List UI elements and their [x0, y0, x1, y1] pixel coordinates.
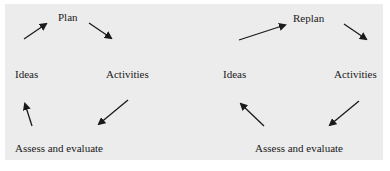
node-replan: Replan	[293, 13, 324, 24]
arrow-assess-to-ideas-right	[241, 104, 264, 126]
arrow-ideas-to-plan	[24, 24, 46, 39]
node-assess-and-evaluate: Assess and evaluate	[15, 143, 103, 154]
arrow-activities-to-assess	[99, 100, 128, 124]
arrow-plan-to-activities	[89, 23, 111, 38]
arrow-activities-to-assess-right	[330, 101, 359, 125]
node-activities: Activities	[106, 69, 149, 80]
node-activities-right: Activities	[334, 69, 377, 80]
node-plan: Plan	[58, 12, 78, 23]
arrow-assess-to-ideas	[25, 104, 32, 126]
node-ideas: Ideas	[15, 69, 38, 80]
arrow-replan-to-activities	[344, 24, 366, 39]
node-assess-and-evaluate-right: Assess and evaluate	[255, 143, 343, 154]
arrow-ideas-to-replan	[239, 25, 285, 40]
node-ideas-right: Ideas	[223, 69, 246, 80]
